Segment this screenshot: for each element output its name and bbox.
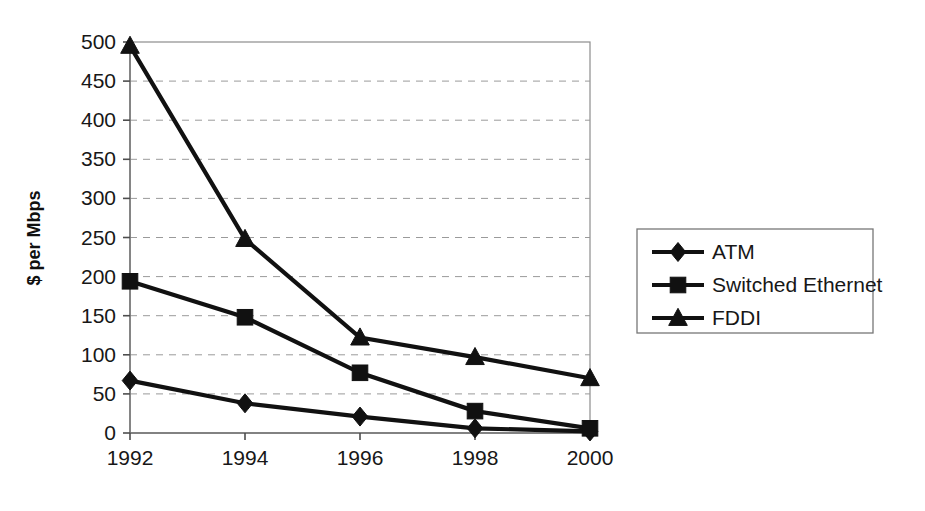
line-chart: 050100150200250300350400450500 199219941… bbox=[0, 0, 925, 511]
y-tick-label: 250 bbox=[81, 226, 116, 249]
legend-marker-square bbox=[670, 277, 686, 293]
x-tick-label: 1998 bbox=[452, 446, 499, 469]
y-tick-label: 0 bbox=[104, 421, 116, 444]
data-point-square bbox=[237, 309, 253, 325]
y-axis-title: $ per Mbps bbox=[24, 190, 44, 285]
data-point-square bbox=[582, 421, 598, 437]
data-point-square bbox=[352, 365, 368, 381]
y-tick-label: 100 bbox=[81, 343, 116, 366]
chart-canvas: 050100150200250300350400450500 199219941… bbox=[0, 0, 925, 511]
y-tick-label: 50 bbox=[93, 382, 116, 405]
y-tick-label: 300 bbox=[81, 186, 116, 209]
x-tick-label: 1994 bbox=[222, 446, 269, 469]
legend-label: ATM bbox=[712, 240, 755, 263]
y-tick-label: 500 bbox=[81, 30, 116, 53]
y-tick-label: 350 bbox=[81, 147, 116, 170]
y-tick-label: 400 bbox=[81, 108, 116, 131]
y-tick-label: 450 bbox=[81, 69, 116, 92]
legend: ATMSwitched EthernetFDDI bbox=[637, 229, 883, 333]
data-point-square bbox=[467, 403, 483, 419]
x-tick-label: 1996 bbox=[337, 446, 384, 469]
x-tick-label: 2000 bbox=[567, 446, 614, 469]
legend-label: FDDI bbox=[712, 306, 761, 329]
legend-label: Switched Ethernet bbox=[712, 273, 883, 296]
data-point-square bbox=[122, 274, 138, 290]
x-tick-label: 1992 bbox=[107, 446, 154, 469]
x-axis-ticks: 19921994199619982000 bbox=[107, 433, 614, 469]
y-tick-label: 150 bbox=[81, 304, 116, 327]
y-tick-label: 200 bbox=[81, 265, 116, 288]
